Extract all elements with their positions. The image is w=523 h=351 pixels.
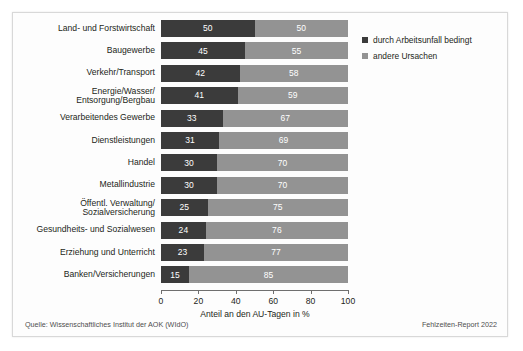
bar-row: Erziehung und Unterricht2377 (161, 244, 348, 261)
bar-value-label: 59 (288, 91, 298, 100)
legend-item: durch Arbeitsunfall bedingt (362, 33, 502, 46)
legend-swatch-icon (362, 53, 368, 59)
bar-row: Verkehr/Transport4258 (161, 65, 348, 82)
chart-legend: durch Arbeitsunfall bedingtandere Ursach… (362, 33, 502, 65)
bar-segment-arbeitsunfall: 45 (161, 42, 245, 59)
category-label: Gesundheits- und Sozialwesen (5, 225, 155, 234)
x-axis-tick-label: 80 (306, 296, 316, 306)
bar-value-label: 45 (198, 47, 208, 56)
legend-label: andere Ursachen (373, 51, 437, 61)
x-axis-tick (273, 290, 274, 294)
category-label: Land- und Forstwirtschaft (5, 24, 155, 33)
category-label: Verkehr/Transport (5, 69, 155, 78)
category-label: Verarbeitendes Gewerbe (5, 113, 155, 122)
bar-row: Gesundheits- und Sozialwesen2476 (161, 222, 348, 239)
bar-value-label: 50 (203, 24, 213, 33)
bar-row: Verarbeitendes Gewerbe3367 (161, 110, 348, 127)
bar-value-label: 30 (184, 181, 194, 190)
bar-value-label: 70 (278, 181, 288, 190)
x-axis-tick-label: 20 (194, 296, 204, 306)
bar-segment-andere-ursachen: 85 (189, 266, 348, 283)
legend-item: andere Ursachen (362, 49, 502, 62)
bar-segment-arbeitsunfall: 31 (161, 132, 219, 149)
category-label: Banken/Versicherungen (5, 270, 155, 279)
x-axis-tick-label: 0 (159, 296, 164, 306)
bar-value-label: 33 (187, 114, 197, 123)
bar-value-label: 70 (278, 159, 288, 168)
bar-value-label: 50 (296, 24, 306, 33)
bar-row: Energie/Wasser/ Entsorgung/Bergbau4159 (161, 87, 348, 104)
bar-value-label: 24 (179, 226, 189, 235)
x-axis-line (161, 290, 349, 291)
bar-segment-andere-ursachen: 50 (255, 20, 349, 37)
category-label: Baugewerbe (5, 46, 155, 55)
x-axis-title: Anteil an den AU-Tagen in % (161, 309, 349, 319)
bar-segment-andere-ursachen: 55 (245, 42, 348, 59)
bar-segment-arbeitsunfall: 33 (161, 110, 223, 127)
x-axis-tick-label: 40 (231, 296, 241, 306)
x-axis-tick (311, 290, 312, 294)
bar-segment-andere-ursachen: 70 (217, 177, 348, 194)
bar-segment-arbeitsunfall: 23 (161, 244, 204, 261)
bar-value-label: 30 (184, 159, 194, 168)
category-label: Handel (5, 158, 155, 167)
bar-segment-arbeitsunfall: 30 (161, 177, 217, 194)
category-label: Energie/Wasser/ Entsorgung/Bergbau (5, 86, 155, 105)
bar-row: Baugewerbe4555 (161, 42, 348, 59)
category-label: Dienstleistungen (5, 136, 155, 145)
x-axis-tick (161, 290, 162, 294)
x-axis-tick (236, 290, 237, 294)
bar-segment-andere-ursachen: 59 (238, 87, 348, 104)
bar-value-label: 55 (292, 47, 302, 56)
bar-segment-arbeitsunfall: 24 (161, 222, 206, 239)
chart-plot-area: Land- und Forstwirtschaft5050Baugewerbe4… (161, 20, 348, 290)
bar-segment-arbeitsunfall: 42 (161, 65, 240, 82)
category-label: Metallindustrie (5, 181, 155, 190)
bar-segment-arbeitsunfall: 30 (161, 154, 217, 171)
bar-segment-andere-ursachen: 69 (219, 132, 348, 149)
bar-segment-arbeitsunfall: 15 (161, 266, 189, 283)
bar-row: Metallindustrie3070 (161, 177, 348, 194)
x-axis-tick (198, 290, 199, 294)
category-label: Öffentl. Verwaltung/ Sozialversicherung (5, 198, 155, 217)
legend-label: durch Arbeitsunfall bedingt (373, 35, 472, 45)
category-label: Erziehung und Unterricht (5, 248, 155, 257)
bar-row: Öffentl. Verwaltung/ Sozialversicherung2… (161, 199, 348, 216)
bar-segment-andere-ursachen: 67 (223, 110, 348, 127)
x-axis-tick-label: 60 (268, 296, 278, 306)
x-axis-tick (348, 290, 349, 294)
bar-segment-andere-ursachen: 58 (240, 65, 348, 82)
bar-value-label: 31 (185, 136, 195, 145)
bar-value-label: 85 (264, 271, 274, 280)
bar-segment-andere-ursachen: 75 (208, 199, 348, 216)
bar-value-label: 69 (279, 136, 289, 145)
source-note: Quelle: Wissenschaftliches Institut der … (25, 320, 188, 329)
bar-segment-arbeitsunfall: 41 (161, 87, 238, 104)
bar-segment-andere-ursachen: 77 (204, 244, 348, 261)
bar-value-label: 15 (170, 271, 180, 280)
report-note: Fehlzeiten-Report 2022 (422, 320, 497, 329)
legend-swatch-icon (362, 37, 368, 43)
bar-row: Banken/Versicherungen1585 (161, 266, 348, 283)
bar-value-label: 77 (271, 248, 281, 257)
chart-figure: Land- und Forstwirtschaft5050Baugewerbe4… (12, 12, 508, 337)
bar-value-label: 76 (272, 226, 282, 235)
bar-segment-andere-ursachen: 76 (206, 222, 348, 239)
bar-segment-arbeitsunfall: 25 (161, 199, 208, 216)
bar-value-label: 75 (273, 203, 283, 212)
bar-row: Handel3070 (161, 154, 348, 171)
bar-value-label: 42 (195, 69, 205, 78)
bar-value-label: 58 (289, 69, 299, 78)
bar-row: Land- und Forstwirtschaft5050 (161, 20, 348, 37)
bar-value-label: 25 (180, 203, 190, 212)
bar-segment-arbeitsunfall: 50 (161, 20, 255, 37)
bar-value-label: 67 (281, 114, 291, 123)
bar-row: Dienstleistungen3169 (161, 132, 348, 149)
bar-value-label: 23 (178, 248, 188, 257)
x-axis-tick-label: 100 (341, 296, 355, 306)
bar-segment-andere-ursachen: 70 (217, 154, 348, 171)
bar-value-label: 41 (195, 91, 205, 100)
